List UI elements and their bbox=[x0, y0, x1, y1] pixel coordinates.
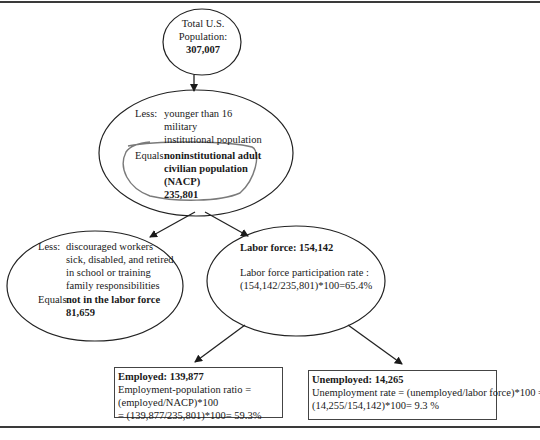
arrow-labor-force-to-unemployed bbox=[348, 325, 402, 364]
nacp-equals-label: Equals: bbox=[135, 149, 167, 162]
nacp-total-value: 235,801 bbox=[164, 188, 261, 201]
nilf-equals-value: not in the labor force 81,659 bbox=[66, 293, 160, 319]
labor-force-title-value: : 154,142 bbox=[293, 242, 333, 253]
arrow-labor-force-to-employed bbox=[195, 325, 245, 362]
employment-ratio-label: Employment-population ratio = bbox=[118, 383, 279, 396]
nilf-value: 81,659 bbox=[66, 306, 160, 319]
nilf-less-label: Less: bbox=[38, 240, 60, 253]
labor-force-rate: Labor force participation rate : (154,14… bbox=[240, 266, 372, 292]
nacp-line3: (NACP) bbox=[164, 175, 261, 188]
total-population-line1: Total U.S. bbox=[172, 17, 234, 30]
total-population-line2: Population: bbox=[172, 30, 234, 43]
nacp-line2: civilian population bbox=[164, 162, 261, 175]
unemployed-title: Unemployed: 14,265 bbox=[312, 373, 493, 386]
less-item-institutional: institutional population bbox=[164, 133, 262, 146]
arrow-nacp-to-not-in-labor-force bbox=[150, 212, 195, 237]
participation-rate-label: Labor force participation rate : bbox=[240, 266, 372, 279]
nacp-less-list: younger than 16 military institutional p… bbox=[164, 107, 262, 146]
employed-box: Employed: 139,877 Employment-population … bbox=[114, 367, 283, 418]
employed-title: Employed: 139,877 bbox=[118, 370, 279, 383]
less-item-under-16: younger than 16 bbox=[164, 107, 262, 120]
participation-rate-formula: (154,142/235,801)*100=65.4% bbox=[240, 279, 372, 292]
employment-ratio-formula: (employed/NACP)*100 bbox=[118, 396, 279, 409]
less-item-military: military bbox=[164, 120, 262, 133]
labor-force-title: Labor force: 154,142 bbox=[240, 241, 333, 254]
less-item-school-training: in school or training bbox=[66, 266, 174, 279]
arrow-nacp-to-labor-force bbox=[205, 212, 248, 236]
nacp-equals-value: noninstitutional adult civilian populati… bbox=[164, 149, 261, 201]
nilf-text: not in the labor force bbox=[66, 293, 160, 306]
employment-ratio-result: = (139,877/235,801)*100= 59.3% bbox=[118, 409, 279, 422]
less-item-sick-disabled-retired: sick, disabled, and retired bbox=[66, 253, 174, 266]
total-population-value: 307,007 bbox=[172, 43, 234, 56]
total-population-label: Total U.S. Population: 307,007 bbox=[172, 17, 234, 56]
unemployment-rate-label: Unemployment rate = (unemployed/labor fo… bbox=[312, 386, 493, 399]
labor-force-title-label: Labor force bbox=[240, 242, 293, 253]
nilf-equals-label: Equals: bbox=[38, 293, 70, 306]
nacp-line1: noninstitutional adult bbox=[164, 149, 261, 162]
nilf-less-list: discouraged workers sick, disabled, and … bbox=[66, 240, 174, 292]
unemployed-box: Unemployed: 14,265 Unemployment rate = (… bbox=[308, 370, 497, 420]
less-item-family: family responsibilities bbox=[66, 279, 174, 292]
nacp-less-label: Less: bbox=[135, 107, 157, 120]
unemployment-rate-result: (14,255/154,142)*100= 9.3 % bbox=[312, 399, 493, 412]
less-item-discouraged: discouraged workers bbox=[66, 240, 174, 253]
